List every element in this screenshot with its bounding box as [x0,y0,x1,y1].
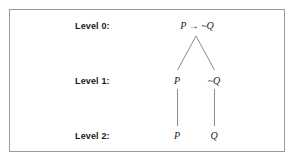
level-label-1: Level 1: [75,76,110,86]
level-label-0: Level 0: [75,21,110,31]
truth-tree-figure: Level 0: Level 1: Level 2: P → ~Q P ~Q P… [0,0,297,166]
figure-frame [9,9,285,152]
tree-node-level2-right: Q [210,130,217,141]
tree-node-level1-right: ~Q [208,75,221,86]
tree-node-root: P → ~Q [180,20,214,31]
tree-node-level2-left: P [174,130,180,141]
tree-node-level1-left: P [174,75,180,86]
level-label-2: Level 2: [75,131,110,141]
